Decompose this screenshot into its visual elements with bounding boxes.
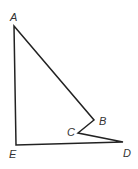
vertex-label-e: E bbox=[9, 148, 17, 160]
diagram-canvas: A B C D E bbox=[0, 0, 138, 169]
vertex-label-b: B bbox=[99, 115, 106, 127]
vertex-label-d: D bbox=[123, 147, 131, 159]
vertex-label-a: A bbox=[9, 11, 17, 23]
vertex-label-c: C bbox=[67, 126, 75, 138]
